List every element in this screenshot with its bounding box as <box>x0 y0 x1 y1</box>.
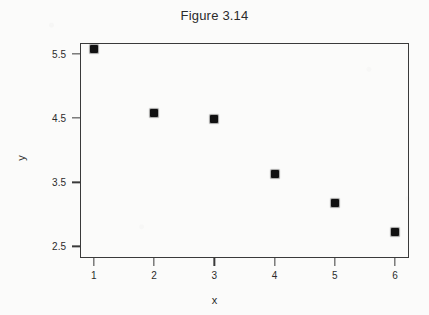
data-point <box>150 109 158 117</box>
y-tick-label: 4.5 <box>26 113 66 124</box>
data-point <box>271 170 279 178</box>
data-point <box>391 228 399 236</box>
y-tick-label: 5.5 <box>26 48 66 59</box>
x-tick-mark <box>214 258 215 266</box>
y-tick-label: 2.5 <box>26 241 66 252</box>
x-tick-label: 5 <box>320 270 350 281</box>
data-point <box>210 115 218 123</box>
y-tick-mark <box>72 53 80 54</box>
figure-container: Figure 3.14 y x 2.53.54.55.5 123456 <box>0 0 429 315</box>
y-axis-label: y <box>15 155 27 161</box>
x-axis-label: x <box>0 294 429 306</box>
data-point <box>90 45 98 53</box>
y-tick-mark <box>72 117 80 118</box>
x-tick-mark <box>153 258 154 266</box>
y-tick-mark <box>72 182 80 183</box>
y-tick-mark <box>72 246 80 247</box>
plot-area <box>80 43 409 258</box>
chart-title: Figure 3.14 <box>0 8 429 23</box>
data-point <box>331 199 339 207</box>
x-tick-label: 2 <box>139 270 169 281</box>
x-tick-mark <box>394 258 395 266</box>
y-tick-label: 3.5 <box>26 177 66 188</box>
x-tick-label: 4 <box>260 270 290 281</box>
x-tick-mark <box>93 258 94 266</box>
x-tick-mark <box>334 258 335 266</box>
x-tick-label: 3 <box>199 270 229 281</box>
x-tick-label: 1 <box>79 270 109 281</box>
x-tick-mark <box>274 258 275 266</box>
x-tick-label: 6 <box>380 270 410 281</box>
